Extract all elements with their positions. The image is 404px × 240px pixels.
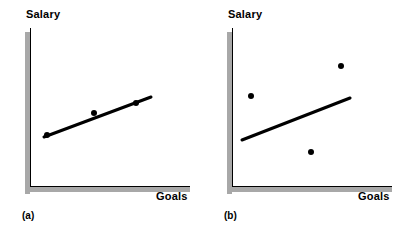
- panel-b: Salary Goals (b): [202, 0, 404, 240]
- panel-caption-a: (a): [22, 210, 34, 221]
- figure-two-scatter-panels: Salary Goals (a) Salary Goals (b): [0, 0, 404, 240]
- data-point-a-2: [91, 110, 97, 116]
- panel-a: Salary Goals (a): [0, 0, 202, 240]
- data-point-b-1: [248, 93, 254, 99]
- data-point-b-2: [308, 149, 314, 155]
- plot-area-a: [0, 0, 202, 240]
- data-point-a-1: [44, 132, 50, 138]
- panel-caption-b: (b): [224, 210, 237, 221]
- data-point-a-3: [133, 100, 139, 106]
- data-point-b-3: [338, 63, 344, 69]
- regression-line-b: [242, 98, 350, 140]
- plot-area-b: [202, 0, 404, 240]
